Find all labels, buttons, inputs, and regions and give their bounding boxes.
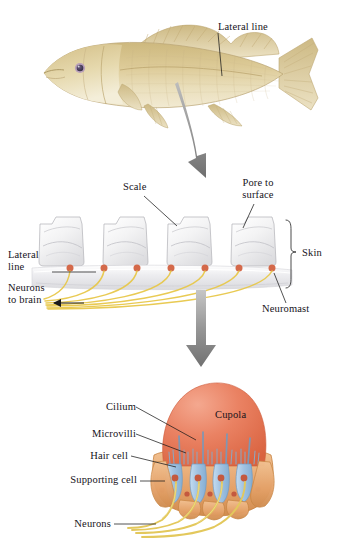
cupola — [163, 383, 266, 466]
label-supporting-cell: Supporting cell — [26, 474, 137, 486]
label-lateral-line-skin: Lateral line — [8, 249, 39, 272]
scale-group — [39, 217, 276, 266]
skin-cross-section — [32, 196, 296, 309]
nucleus — [207, 491, 212, 496]
label-skin: Skin — [302, 247, 322, 259]
label-neuromast: Neuromast — [262, 303, 309, 315]
label-cilium: Cilium — [36, 401, 136, 413]
nucleus — [184, 491, 189, 496]
eye-highlight — [78, 65, 80, 67]
anal-fin — [208, 104, 242, 126]
label-pore-to-surface: Pore to surface — [228, 177, 288, 200]
eye-pupil — [77, 65, 84, 72]
label-scale: Scale — [123, 181, 147, 193]
label-lateral-line-fish: Lateral line — [218, 21, 268, 33]
arrow-skin-to-neuromast — [186, 290, 216, 367]
nucleus — [231, 491, 236, 496]
neuromast-detail-illustration — [114, 383, 274, 537]
whole-fish-illustration — [44, 25, 318, 128]
label-neurons-to-brain: Neurons to brain — [8, 282, 45, 305]
label-hair-cell: Hair cell — [26, 450, 128, 462]
nucleus — [241, 475, 248, 482]
nucleus — [195, 475, 202, 482]
nucleus — [172, 475, 179, 482]
caudal-fin — [279, 38, 318, 110]
leader-scale — [144, 196, 177, 226]
lateral-line-figure — [0, 0, 343, 548]
label-neurons: Neurons — [30, 518, 111, 530]
nucleus — [218, 475, 225, 482]
label-microvilli: Microvilli — [36, 428, 136, 440]
label-cupola: Cupola — [215, 409, 246, 421]
